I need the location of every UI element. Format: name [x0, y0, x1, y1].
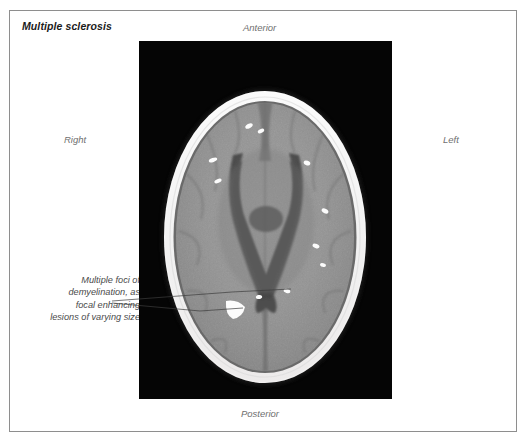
orientation-label-anterior: Anterior [243, 22, 276, 33]
annotation-line-4: lesions of varying size [26, 311, 140, 323]
ct-scan-image [139, 41, 392, 399]
orientation-label-posterior: Posterior [241, 408, 279, 419]
annotation-line-2: demyelination, as [26, 286, 140, 298]
annotation-callout: Multiple foci of demyelination, as focal… [26, 274, 140, 323]
annotation-line-1: Multiple foci of [26, 274, 140, 286]
orientation-label-left: Left [443, 134, 459, 145]
orientation-label-right: Right [64, 134, 86, 145]
ct-scan-panel [139, 41, 392, 399]
annotation-line-3: focal enhancing [26, 299, 140, 311]
figure-root: Multiple sclerosis Anterior Posterior Ri… [0, 0, 527, 448]
page-title: Multiple sclerosis [22, 20, 112, 32]
